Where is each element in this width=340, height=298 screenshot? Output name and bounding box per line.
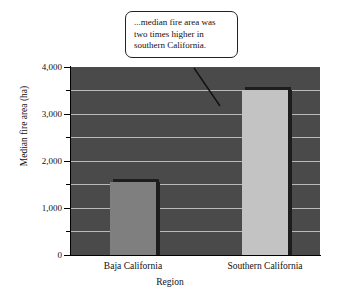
x-tick-label-baja-california: Baja California	[63, 261, 203, 271]
bar-shadow-side	[156, 182, 160, 255]
y-tick-2500-minor	[66, 137, 70, 138]
y-tick-500-minor	[66, 231, 70, 232]
y-tick-label-4000: 4,000	[42, 63, 62, 72]
x-tick-label-southern-california: Southern California	[195, 261, 335, 271]
callout-line-3: southern California.	[134, 40, 230, 52]
bar-baja-california[interactable]	[110, 182, 156, 255]
y-tick-label-2000: 2,000	[42, 157, 62, 166]
y-tick-4000	[64, 67, 70, 68]
y-axis-title: Median fire area (ha)	[19, 56, 29, 196]
x-axis-line	[70, 255, 321, 256]
x-axis-title: Region	[0, 277, 340, 287]
bar-shadow-side	[288, 90, 292, 255]
y-axis-line	[70, 66, 71, 256]
callout-line-1: ...median fire area was	[134, 17, 230, 29]
y-tick-1000	[64, 208, 70, 209]
bar-face	[242, 90, 288, 255]
y-tick-label-1000: 1,000	[42, 204, 62, 213]
y-tick-3500-minor	[66, 90, 70, 91]
y-tick-2000	[64, 161, 70, 162]
y-tick-0	[64, 255, 70, 256]
chart-figure: 4,000 3,000 2,000 1,000 0 Median fire ar…	[0, 0, 340, 298]
callout-annotation[interactable]: ...median fire area was two times higher…	[125, 11, 238, 58]
plot-area	[71, 67, 320, 255]
y-tick-label-0: 0	[58, 251, 63, 260]
y-tick-label-3000: 3,000	[42, 110, 62, 119]
y-tick-1500-minor	[66, 184, 70, 185]
callout-line-2: two times higher in	[134, 29, 230, 41]
bar-southern-california[interactable]	[242, 90, 288, 255]
bar-face	[110, 182, 156, 255]
y-tick-3000	[64, 114, 70, 115]
